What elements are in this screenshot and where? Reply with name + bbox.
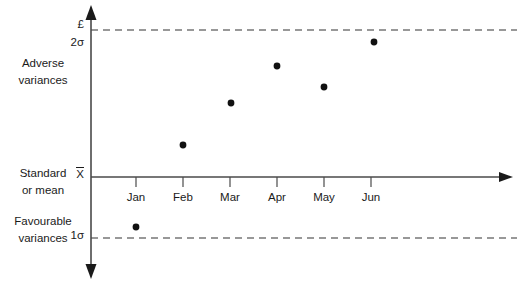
standard-or-mean-line1: Standard: [0, 165, 86, 182]
data-point-apr[interactable]: [274, 63, 281, 70]
adverse-variances-label: Adverse variances: [0, 55, 86, 89]
tick-label-apr: Apr: [268, 191, 286, 203]
currency-symbol-label: £: [58, 18, 84, 31]
data-point-may[interactable]: [321, 84, 328, 91]
data-point-group: [133, 39, 378, 231]
adverse-variances-line2: variances: [0, 72, 86, 89]
data-point-jun[interactable]: [371, 39, 378, 46]
variance-control-chart: £ 2σ X 1σ Adverse variances Standard or …: [0, 0, 525, 285]
data-point-mar[interactable]: [228, 100, 235, 107]
tick-label-may: May: [313, 191, 335, 203]
data-point-jan[interactable]: [133, 224, 140, 231]
upper-sigma-label: 2σ: [58, 36, 84, 49]
tick-label-jun: Jun: [362, 191, 381, 203]
standard-or-mean-label: Standard or mean: [0, 165, 86, 199]
x-axis-ticks: [136, 177, 371, 187]
favourable-variances-label: Favourable variances: [0, 213, 86, 247]
y-axis-down-arrow-icon: [86, 264, 97, 279]
standard-or-mean-line2: or mean: [0, 182, 86, 199]
data-point-feb[interactable]: [180, 142, 187, 149]
y-axis-up-arrow-icon: [86, 5, 97, 20]
adverse-variances-line1: Adverse: [0, 55, 86, 72]
x-axis-right-arrow-icon: [499, 172, 513, 182]
tick-label-jan: Jan: [127, 191, 146, 203]
favourable-variances-line2: variances: [0, 230, 86, 247]
tick-label-mar: Mar: [220, 191, 240, 203]
tick-label-feb: Feb: [173, 191, 193, 203]
favourable-variances-line1: Favourable: [0, 213, 86, 230]
